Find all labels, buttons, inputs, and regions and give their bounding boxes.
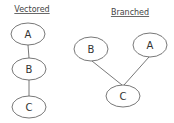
node-c-label: C	[26, 102, 33, 113]
node-a-label: A	[25, 29, 32, 40]
vectored-diagram: Vectored A B C	[11, 5, 50, 118]
edge-b-c	[92, 61, 122, 85]
branched-diagram: Branched B A C	[74, 8, 167, 107]
node-c-label: C	[120, 91, 127, 102]
node-b-label: B	[26, 64, 33, 75]
node-b-label: B	[88, 44, 95, 55]
vectored-title: Vectored	[14, 5, 49, 14]
edge-a-b	[28, 45, 29, 58]
branched-title: Branched	[111, 8, 149, 17]
diagram-canvas: Vectored A B C Branched B A C	[0, 0, 174, 123]
edge-a-c	[124, 57, 149, 85]
node-a-label: A	[147, 40, 154, 51]
